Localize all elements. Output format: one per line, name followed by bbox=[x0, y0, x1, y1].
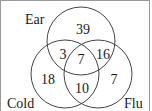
region-all-three: 7 bbox=[78, 52, 85, 67]
region-ear-cold: 3 bbox=[60, 47, 67, 62]
region-cold-flu: 10 bbox=[75, 81, 89, 96]
region-flu-only: 7 bbox=[111, 72, 118, 87]
venn-diagram: Ear Cold Flu 39 3 7 16 18 10 7 bbox=[0, 0, 152, 111]
ear-label: Ear bbox=[25, 12, 45, 27]
region-ear-flu: 16 bbox=[96, 47, 110, 62]
region-ear-only: 39 bbox=[76, 22, 90, 37]
flu-label: Flu bbox=[124, 96, 143, 111]
region-cold-only: 18 bbox=[41, 72, 55, 87]
cold-label: Cold bbox=[7, 96, 34, 111]
